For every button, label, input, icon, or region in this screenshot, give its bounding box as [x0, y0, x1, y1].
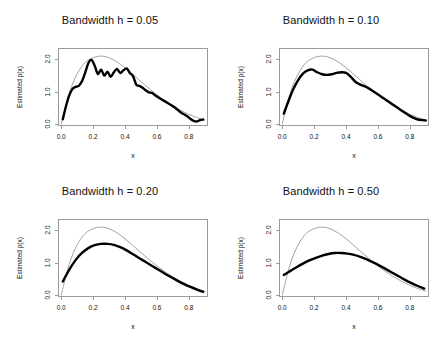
- x-tick-label: 0.6: [366, 131, 390, 143]
- y-tick-labels: 0.01.02.0: [257, 48, 277, 126]
- x-tick-mark: [93, 297, 94, 300]
- x-tick-mark: [410, 126, 411, 129]
- plot-area: [279, 219, 429, 297]
- y-tick-mark: [55, 295, 58, 296]
- true-density-curve: [282, 56, 426, 124]
- y-tick-mark: [276, 92, 279, 93]
- x-tick-label: 0.8: [398, 302, 422, 314]
- plot-curves: [279, 48, 429, 126]
- x-tick-mark: [346, 297, 347, 300]
- x-tick-label: 0.2: [81, 131, 105, 143]
- x-tick-label: 0.8: [398, 131, 422, 143]
- x-tick-mark: [125, 297, 126, 300]
- x-tick-label: 0.6: [145, 131, 169, 143]
- x-tick-mark: [314, 297, 315, 300]
- x-tick-mark: [189, 126, 190, 129]
- y-tick-label: 2.0: [40, 54, 56, 64]
- y-axis-label: Estimated p(x): [235, 0, 247, 48]
- x-tick-label: 0.8: [177, 131, 201, 143]
- y-tick-mark: [55, 124, 58, 125]
- x-tick-mark: [378, 297, 379, 300]
- panel-h-0-05: Bandwidth h = 0.05 Estimated p(x) 0.01.0…: [0, 0, 220, 172]
- x-tick-label: 0.0: [270, 131, 294, 143]
- y-tick-label: 0.0: [261, 119, 277, 129]
- x-tick-mark: [61, 297, 62, 300]
- x-tick-label: 0.0: [270, 302, 294, 314]
- x-axis-label: x: [58, 152, 208, 159]
- x-tick-label: 0.2: [302, 131, 326, 143]
- x-tick-mark: [282, 126, 283, 129]
- y-tick-labels: 0.01.02.0: [36, 48, 56, 126]
- x-tick-mark: [282, 297, 283, 300]
- plot-curves: [279, 219, 429, 297]
- y-tick-labels: 0.01.02.0: [36, 219, 56, 297]
- y-tick-mark: [55, 230, 58, 231]
- panel-h-0-50: Bandwidth h = 0.50 Estimated p(x) 0.01.0…: [221, 171, 441, 343]
- x-tick-mark: [346, 126, 347, 129]
- kde-curve: [284, 253, 424, 289]
- y-tick-label: 2.0: [261, 225, 277, 235]
- x-tick-labels: 0.00.20.40.60.8: [58, 302, 208, 314]
- plot-curves: [58, 219, 208, 297]
- x-tick-mark: [314, 126, 315, 129]
- y-axis-label: Estimated p(x): [14, 141, 26, 219]
- x-tick-mark: [157, 297, 158, 300]
- y-tick-label: 0.0: [40, 119, 56, 129]
- plot-area: [279, 48, 429, 126]
- panel-h-0-10: Bandwidth h = 0.10 Estimated p(x) 0.01.0…: [221, 0, 441, 172]
- panel-title: Bandwidth h = 0.10: [221, 14, 441, 26]
- y-tick-mark: [55, 59, 58, 60]
- y-tick-mark: [276, 295, 279, 296]
- x-axis-label: x: [58, 323, 208, 330]
- y-tick-mark: [276, 124, 279, 125]
- x-tick-label: 0.2: [302, 302, 326, 314]
- kde-bandwidth-figure: Bandwidth h = 0.05 Estimated p(x) 0.01.0…: [0, 0, 441, 345]
- x-tick-label: 0.8: [177, 302, 201, 314]
- x-tick-label: 0.4: [334, 131, 358, 143]
- x-tick-mark: [378, 126, 379, 129]
- y-tick-mark: [55, 263, 58, 264]
- kde-curve: [63, 244, 203, 292]
- y-tick-labels: 0.01.02.0: [257, 219, 277, 297]
- y-tick-mark: [276, 230, 279, 231]
- x-tick-mark: [157, 126, 158, 129]
- y-tick-label: 1.0: [40, 258, 56, 268]
- plot-area: [58, 219, 208, 297]
- x-tick-label: 0.0: [49, 131, 73, 143]
- panel-title: Bandwidth h = 0.50: [221, 185, 441, 197]
- y-tick-label: 2.0: [261, 54, 277, 64]
- y-tick-mark: [55, 92, 58, 93]
- kde-curve: [63, 60, 203, 122]
- x-tick-label: 0.4: [113, 302, 137, 314]
- x-tick-label: 0.4: [113, 131, 137, 143]
- true-density-curve: [282, 227, 426, 295]
- x-tick-mark: [125, 126, 126, 129]
- x-tick-label: 0.2: [81, 302, 105, 314]
- y-tick-label: 1.0: [261, 258, 277, 268]
- panel-h-0-20: Bandwidth h = 0.20 Estimated p(x) 0.01.0…: [0, 171, 220, 343]
- x-tick-mark: [410, 297, 411, 300]
- x-tick-labels: 0.00.20.40.60.8: [279, 131, 429, 143]
- y-tick-mark: [276, 263, 279, 264]
- x-axis-label: x: [279, 323, 429, 330]
- x-tick-labels: 0.00.20.40.60.8: [279, 302, 429, 314]
- x-tick-label: 0.6: [366, 302, 390, 314]
- y-tick-label: 1.0: [40, 87, 56, 97]
- x-tick-mark: [93, 126, 94, 129]
- x-tick-mark: [61, 126, 62, 129]
- panel-title: Bandwidth h = 0.20: [0, 185, 220, 197]
- y-tick-mark: [276, 59, 279, 60]
- y-axis-label: Estimated p(x): [235, 141, 247, 219]
- x-tick-label: 0.0: [49, 302, 73, 314]
- y-tick-label: 0.0: [261, 290, 277, 300]
- kde-curve: [284, 70, 426, 121]
- plot-area: [58, 48, 208, 126]
- x-tick-label: 0.4: [334, 302, 358, 314]
- x-axis-label: x: [279, 152, 429, 159]
- y-tick-label: 1.0: [261, 87, 277, 97]
- x-tick-mark: [189, 297, 190, 300]
- x-tick-labels: 0.00.20.40.60.8: [58, 131, 208, 143]
- y-tick-label: 2.0: [40, 225, 56, 235]
- y-axis-label: Estimated p(x): [14, 0, 26, 48]
- panel-title: Bandwidth h = 0.05: [0, 14, 220, 26]
